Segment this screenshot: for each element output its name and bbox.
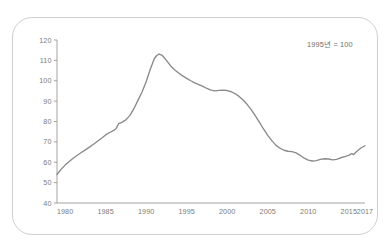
y-axis-tick-label: 80 — [43, 117, 51, 126]
x-axis-tick-label: 2000 — [219, 207, 235, 216]
x-axis-tick-label: 1990 — [138, 207, 154, 216]
y-axis: 405060708090100110120 — [39, 36, 57, 208]
y-axis-tick-label: 110 — [40, 56, 52, 65]
chart-figure: 405060708090100110120 198019851990199520… — [0, 0, 390, 250]
series-line-index — [57, 54, 365, 174]
x-axis: 198019851990199520002005201020152017 — [57, 203, 373, 216]
data-series-group — [57, 54, 365, 174]
y-axis-tick-label: 90 — [43, 97, 51, 106]
y-axis-tick-label: 50 — [43, 178, 51, 187]
y-axis-tick-label: 70 — [43, 137, 51, 146]
y-axis-tick-label: 100 — [39, 76, 51, 85]
y-axis-tick-label: 40 — [43, 199, 51, 208]
x-axis-tick-label: 2015 — [341, 207, 357, 216]
x-axis-tick-label: 2010 — [300, 207, 316, 216]
x-axis-tick-label: 2005 — [260, 207, 276, 216]
y-axis-tick-label: 60 — [43, 158, 51, 167]
y-axis-tick-label: 120 — [39, 36, 51, 45]
x-axis-tick-label: 1985 — [97, 207, 113, 216]
x-axis-tick-label: 2017 — [357, 207, 373, 216]
x-axis-tick-label: 1980 — [57, 207, 73, 216]
x-axis-tick-label: 1995 — [178, 207, 194, 216]
base-year-note: 1995년 = 100 — [307, 38, 353, 49]
